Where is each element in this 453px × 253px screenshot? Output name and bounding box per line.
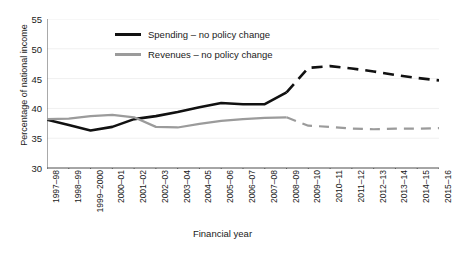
x-tick-label: 2009–10 xyxy=(312,170,322,203)
y-tick-label: 45 xyxy=(31,73,42,84)
y-axis-title: Percentage of national income xyxy=(19,5,29,165)
y-tick-label: 30 xyxy=(31,163,42,174)
x-tick-label: 2000–01 xyxy=(116,170,126,203)
legend-item-revenues: Revenues – no policy change xyxy=(115,44,273,64)
x-tick-label: 2011–12 xyxy=(356,170,366,202)
x-tick-label: 2010–11 xyxy=(334,170,344,202)
x-tick-label: 2008–09 xyxy=(291,170,301,203)
x-tick-label: 2005–06 xyxy=(225,170,235,203)
y-tick-label: 55 xyxy=(31,14,42,25)
legend-swatch-spending-icon xyxy=(115,33,141,36)
series-line-solid xyxy=(47,92,287,130)
x-tick-label: 2015–16 xyxy=(443,170,453,203)
x-axis-tick-labels: 1997–981998–991999–20002000–012001–02200… xyxy=(47,170,439,228)
series-line-dashed xyxy=(287,66,439,92)
y-tick-label: 35 xyxy=(31,133,42,144)
x-tick-label: 2014–15 xyxy=(421,170,431,203)
x-tick-label: 2002–03 xyxy=(160,170,170,203)
x-tick-label: 1998–99 xyxy=(73,170,83,203)
chart-legend: Spending – no policy change Revenues – n… xyxy=(115,24,273,64)
y-tick-label: 50 xyxy=(31,43,42,54)
x-tick-label: 2006–07 xyxy=(247,170,257,203)
x-tick-label: 1997–98 xyxy=(51,170,61,203)
legend-swatch-revenues-icon xyxy=(115,53,141,56)
x-tick-label: 2012–13 xyxy=(378,170,388,203)
series-line-solid xyxy=(47,115,287,128)
x-tick-label: 1999–2000 xyxy=(95,170,105,213)
x-tick-label: 2001–02 xyxy=(138,170,148,203)
legend-label-spending: Spending – no policy change xyxy=(148,29,270,40)
x-tick-label: 2004–05 xyxy=(203,170,213,203)
x-tick-label: 2007–08 xyxy=(269,170,279,203)
x-tick-label: 2013–14 xyxy=(399,170,409,203)
x-axis-title: Financial year xyxy=(0,228,445,239)
legend-item-spending: Spending – no policy change xyxy=(115,24,273,44)
series-line-dashed xyxy=(287,117,439,129)
x-tick-label: 2003–04 xyxy=(182,170,192,203)
y-tick-label: 40 xyxy=(31,103,42,114)
legend-label-revenues: Revenues – no policy change xyxy=(148,49,273,60)
